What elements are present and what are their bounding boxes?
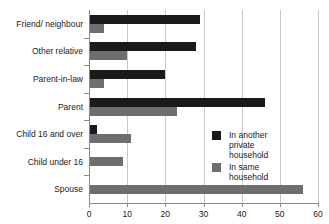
x-axis-tick (127, 203, 128, 207)
x-axis-tick-label: 30 (199, 209, 208, 219)
bar-in-same-household (89, 79, 104, 88)
category-label: Spouse (54, 184, 83, 194)
category-axis-tick (84, 120, 89, 121)
x-axis-tick (318, 203, 319, 207)
category-label: Other relative (32, 46, 83, 56)
bar-in-same-household (89, 24, 104, 33)
x-axis-tick (280, 203, 281, 207)
x-axis-tick-label: 20 (161, 209, 170, 219)
bar-in-another-private-household (89, 98, 265, 107)
category-axis-tick (84, 148, 89, 149)
bar-in-same-household (89, 157, 123, 166)
bar-in-another-private-household (89, 125, 97, 134)
category-label: Child 16 and over (16, 129, 83, 139)
x-axis-tick (165, 203, 166, 207)
bar-in-another-private-household (89, 15, 200, 24)
bar-in-same-household (89, 107, 177, 116)
category-label: Friend/ neighbour (16, 19, 83, 29)
category-label: Parent-in-law (33, 74, 83, 84)
gridline (318, 10, 319, 203)
x-axis-tick-label: 60 (313, 209, 322, 219)
y-axis-line (89, 10, 90, 203)
gridline (280, 10, 281, 203)
category-label: Parent (58, 102, 83, 112)
x-axis-tick (89, 203, 90, 207)
x-axis-tick-label: 0 (87, 209, 92, 219)
bar-chart: Friend/ neighbourOther relativeParent-in… (0, 0, 329, 224)
category-axis-tick (84, 38, 89, 39)
bar-in-same-household (89, 51, 127, 60)
legend-item: In same household (212, 162, 268, 182)
legend-label: In same household (229, 162, 268, 182)
category-axis-tick (84, 175, 89, 176)
x-axis-tick (204, 203, 205, 207)
legend-swatch-icon (212, 131, 221, 140)
bar-in-another-private-household (89, 42, 196, 51)
plot-area (89, 10, 318, 203)
category-axis-tick (84, 65, 89, 66)
bar-in-another-private-household (89, 70, 165, 79)
x-axis-tick (242, 203, 243, 207)
x-axis-tick-label: 50 (275, 209, 284, 219)
legend-label: In another private household (229, 130, 268, 160)
x-axis-tick-label: 10 (122, 209, 131, 219)
category-label: Child under 16 (28, 157, 83, 167)
gridline (204, 10, 205, 203)
legend-swatch-icon (212, 163, 221, 172)
category-axis-tick (84, 93, 89, 94)
bar-in-same-household (89, 134, 131, 143)
bar-in-same-household (89, 185, 303, 194)
x-axis-tick-label: 40 (237, 209, 246, 219)
legend-item: In another private household (212, 130, 268, 160)
